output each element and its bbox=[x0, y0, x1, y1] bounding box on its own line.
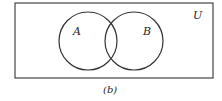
universe-rectangle bbox=[15, 3, 213, 78]
figure-caption: (b) bbox=[103, 84, 117, 95]
set-b-label: B bbox=[142, 25, 151, 38]
set-b-circle bbox=[105, 12, 163, 70]
universe-label: U bbox=[193, 9, 203, 22]
venn-diagram: A B U (b) bbox=[0, 0, 222, 101]
set-a-label: A bbox=[72, 25, 81, 38]
set-a-circle bbox=[59, 12, 117, 70]
